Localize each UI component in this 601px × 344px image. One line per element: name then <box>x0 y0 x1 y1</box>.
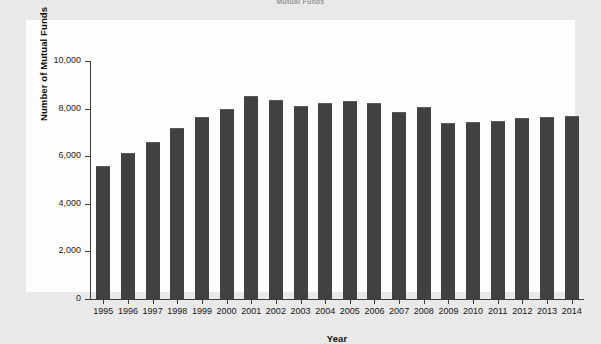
bar <box>318 103 332 299</box>
y-axis-tick-label: 2,000 <box>43 245 81 255</box>
bar <box>195 117 209 299</box>
bar <box>367 103 381 299</box>
bar <box>294 106 308 299</box>
bar <box>269 100 283 299</box>
y-axis-tick-label: 6,000 <box>43 150 81 160</box>
bar <box>96 166 110 299</box>
bar <box>121 153 135 299</box>
x-axis-tick <box>128 300 129 304</box>
x-axis-tick <box>424 300 425 304</box>
bar <box>392 112 406 299</box>
x-axis-tick <box>473 300 474 304</box>
x-axis-tick <box>325 300 326 304</box>
x-axis-label: Year <box>90 333 584 344</box>
y-axis-tick-label: 0 <box>43 293 81 303</box>
x-axis-tick <box>572 300 573 304</box>
bar <box>515 118 529 299</box>
x-axis-tick <box>103 300 104 304</box>
y-axis-tick-label: 4,000 <box>43 198 81 208</box>
x-axis-tick <box>374 300 375 304</box>
x-axis-tick-label: 2014 <box>557 306 587 316</box>
bar <box>170 128 184 299</box>
x-axis-line <box>90 299 584 300</box>
bar <box>343 101 357 299</box>
x-axis-tick <box>153 300 154 304</box>
x-axis-tick <box>522 300 523 304</box>
bar <box>244 96 258 299</box>
chart-title: Mutual Funds <box>0 0 601 6</box>
x-axis-tick <box>301 300 302 304</box>
bar <box>441 123 455 299</box>
x-axis-tick <box>448 300 449 304</box>
plot-panel: 02,0004,0006,0008,00010,000 Number of Mu… <box>26 20 575 292</box>
x-axis-tick <box>399 300 400 304</box>
bar <box>540 117 554 299</box>
bar <box>491 121 505 300</box>
x-axis-tick <box>498 300 499 304</box>
bar <box>466 122 480 299</box>
bar-series <box>91 61 584 299</box>
plot-area: 02,0004,0006,0008,00010,000 Number of Mu… <box>90 61 584 299</box>
bar <box>417 107 431 299</box>
y-axis-tick <box>85 299 91 300</box>
bar <box>565 116 579 299</box>
bar <box>146 142 160 299</box>
x-axis-tick <box>350 300 351 304</box>
x-axis-tick <box>276 300 277 304</box>
x-axis-tick <box>547 300 548 304</box>
bar <box>220 109 234 299</box>
x-axis-tick <box>227 300 228 304</box>
x-axis-tick <box>251 300 252 304</box>
y-axis-label: Number of Mutual Funds <box>38 7 49 121</box>
x-axis-tick <box>177 300 178 304</box>
x-axis-tick <box>202 300 203 304</box>
